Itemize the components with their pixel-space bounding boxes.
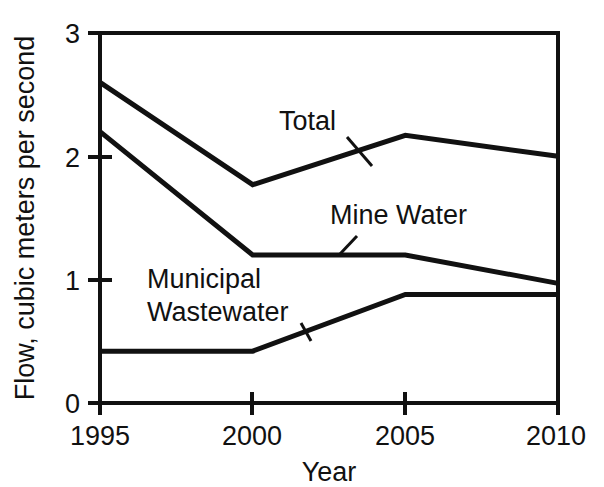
y-tick-label-2: 2 bbox=[65, 143, 80, 173]
x-tick-label-2000: 2000 bbox=[222, 421, 282, 451]
y-tick-label-3: 3 bbox=[65, 19, 80, 49]
y-tick-label-1: 1 bbox=[65, 266, 80, 296]
chart-figure: 3 2 1 0 1995 2000 2005 2010 Year Flow, c… bbox=[0, 0, 604, 487]
series-label-mine-water: Mine Water bbox=[330, 200, 467, 230]
series-label-total: Total bbox=[279, 106, 336, 136]
y-tick-label-0: 0 bbox=[65, 389, 80, 419]
plot-frame bbox=[100, 33, 558, 403]
line-chart: 3 2 1 0 1995 2000 2005 2010 Year Flow, c… bbox=[0, 0, 604, 487]
x-axis-title: Year bbox=[302, 457, 357, 487]
series-line-mine-water bbox=[100, 132, 558, 284]
series-label-municipal-line2: Wastewater bbox=[147, 297, 289, 327]
x-tick-label-1995: 1995 bbox=[70, 421, 130, 451]
x-tick-label-2010: 2010 bbox=[526, 421, 586, 451]
series-label-municipal-line1: Municipal bbox=[147, 264, 261, 294]
y-axis-title: Flow, cubic meters per second bbox=[10, 36, 40, 401]
leader-line-mine-water bbox=[340, 236, 357, 254]
x-tick-label-2005: 2005 bbox=[375, 421, 435, 451]
